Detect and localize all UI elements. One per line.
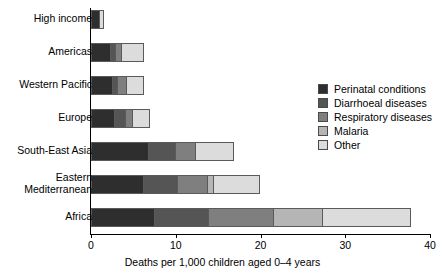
legend-item: Diarrhoeal diseases bbox=[318, 96, 432, 109]
bar-segment bbox=[155, 208, 208, 227]
bar-segment bbox=[323, 208, 411, 227]
x-axis-title: Deaths per 1,000 children aged 0–4 years bbox=[0, 256, 445, 268]
bar-high-income bbox=[91, 10, 104, 29]
x-tick-label: 30 bbox=[330, 239, 360, 251]
category-label: Africa bbox=[65, 211, 92, 223]
bar-segment bbox=[91, 43, 111, 62]
legend-swatch-icon bbox=[318, 112, 328, 122]
bar-segment bbox=[149, 142, 176, 161]
legend-swatch-icon bbox=[318, 84, 328, 94]
bar-eastern-mediterranean bbox=[91, 175, 260, 194]
category-label: Western Pacific bbox=[19, 79, 92, 91]
bar-segment bbox=[118, 76, 127, 95]
bar-segment bbox=[127, 76, 144, 95]
bar-south-east-asia bbox=[91, 142, 234, 161]
x-tick bbox=[91, 234, 92, 238]
bar-africa bbox=[91, 208, 411, 227]
bar-segment bbox=[144, 175, 178, 194]
bar-segment bbox=[274, 208, 323, 227]
bar-segment bbox=[178, 175, 208, 194]
x-tick bbox=[345, 234, 346, 238]
legend-label: Diarrhoeal diseases bbox=[334, 97, 427, 109]
legend-swatch-icon bbox=[318, 126, 328, 136]
x-tick-label: 0 bbox=[76, 239, 106, 251]
bar-segment bbox=[91, 142, 149, 161]
category-label: High income bbox=[34, 13, 92, 25]
legend-item: Perinatal conditions bbox=[318, 82, 432, 95]
bar-segment bbox=[91, 175, 144, 194]
legend-item: Other bbox=[318, 138, 432, 151]
bar-segment bbox=[91, 208, 155, 227]
category-label: Americas bbox=[48, 46, 92, 58]
bar-segment bbox=[122, 43, 144, 62]
x-tick bbox=[176, 234, 177, 238]
bar-segment bbox=[91, 10, 100, 29]
stacked-bar-chart: High incomeAmericasWestern PacificEurope… bbox=[0, 0, 445, 280]
bar-segment bbox=[115, 109, 126, 128]
bar-segment bbox=[100, 10, 103, 29]
bar-segment bbox=[126, 109, 133, 128]
legend-label: Other bbox=[334, 139, 360, 151]
x-tick-label: 10 bbox=[161, 239, 191, 251]
bar-segment bbox=[116, 43, 123, 62]
bar-americas bbox=[91, 43, 144, 62]
bar-segment bbox=[91, 76, 113, 95]
category-label: Eastern Mediterranean bbox=[24, 172, 92, 195]
legend-label: Respiratory diseases bbox=[334, 111, 432, 123]
legend-item: Respiratory diseases bbox=[318, 110, 432, 123]
bar-western-pacific bbox=[91, 76, 144, 95]
bar-segment bbox=[133, 109, 151, 128]
legend-label: Malaria bbox=[334, 125, 368, 137]
legend-swatch-icon bbox=[318, 140, 328, 150]
bar-segment bbox=[176, 142, 196, 161]
x-tick bbox=[261, 234, 262, 238]
x-tick-label: 40 bbox=[415, 239, 445, 251]
bar-segment bbox=[214, 175, 261, 194]
bar-segment bbox=[91, 109, 115, 128]
chart-legend: Perinatal conditionsDiarrhoeal diseasesR… bbox=[318, 82, 432, 152]
bar-europe bbox=[91, 109, 150, 128]
bar-segment bbox=[209, 208, 274, 227]
legend-item: Malaria bbox=[318, 124, 432, 137]
legend-swatch-icon bbox=[318, 98, 328, 108]
bar-segment bbox=[196, 142, 234, 161]
category-label: Europe bbox=[58, 112, 92, 124]
x-tick bbox=[430, 234, 431, 238]
legend-label: Perinatal conditions bbox=[334, 83, 426, 95]
category-label: South-East Asia bbox=[17, 145, 92, 157]
x-tick-label: 20 bbox=[246, 239, 276, 251]
